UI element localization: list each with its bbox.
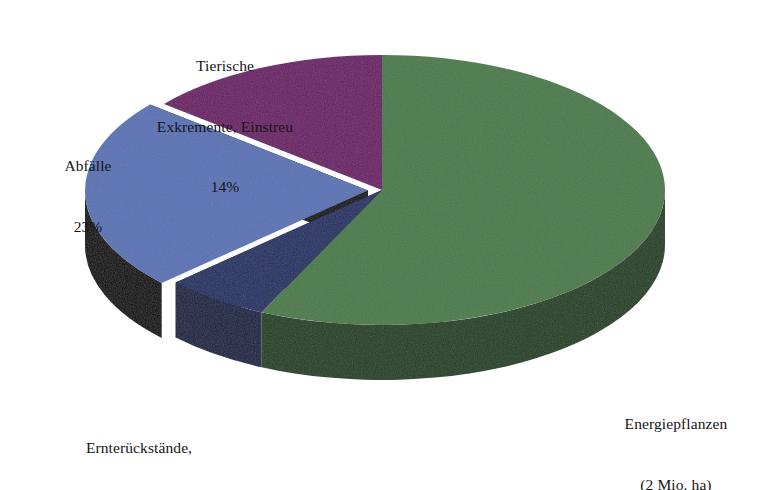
slice-label-ernterueckstaende: Ernterückstände, Landschaftspflege- mate… <box>28 398 250 490</box>
slice-label-abfaelle: Abfälle 23% <box>8 116 168 277</box>
slice-label-line: (2 Mio. ha) <box>592 475 760 490</box>
pie-chart-figure: Tierische Exkremente, Einstreu 14% Abfäl… <box>0 0 766 490</box>
slice-label-line: Ernterückstände, <box>28 438 250 458</box>
slice-label-line: Abfälle <box>8 156 168 176</box>
slice-value-abfaelle: 23% <box>8 217 168 237</box>
slice-label-energiepflanzen: Energiepflanzen (2 Mio. ha) 57% <box>592 374 760 490</box>
slice-label-line: Energiepflanzen <box>592 414 760 434</box>
slice-label-line: Tierische <box>100 56 350 76</box>
